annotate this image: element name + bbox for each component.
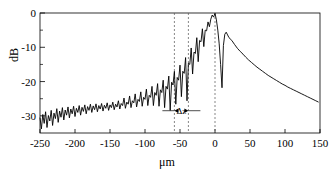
y-tick-label: 0 — [31, 7, 37, 19]
chart-canvas: -250-200-150-100-500501001500-10-20-30Δz — [0, 0, 334, 176]
x-tick-label: 0 — [212, 137, 218, 149]
x-tick-label: 100 — [277, 137, 294, 149]
y-tick-label: -30 — [21, 110, 36, 122]
figure: -250-200-150-100-500501001500-10-20-30Δz… — [0, 0, 334, 176]
x-tick-label: -50 — [173, 137, 188, 149]
x-tick-label: -100 — [135, 137, 156, 149]
x-axis-label: μm — [0, 155, 334, 170]
x-tick-label: -250 — [30, 137, 51, 149]
y-tick-label: -10 — [21, 41, 36, 53]
x-tick-label: -150 — [100, 137, 121, 149]
x-tick-label: -200 — [65, 137, 86, 149]
x-tick-label: 150 — [312, 137, 329, 149]
y-tick-label: -20 — [21, 76, 36, 88]
delta-z-label: Δz — [177, 106, 187, 116]
x-tick-label: 50 — [245, 137, 257, 149]
y-axis-label: dB — [7, 48, 22, 62]
